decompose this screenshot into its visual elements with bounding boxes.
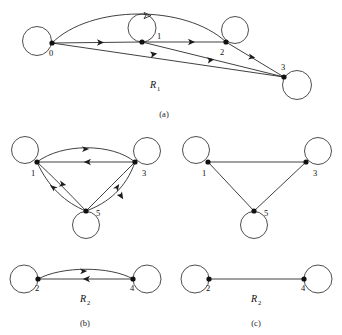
self-loop-c-node-2 — [181, 265, 209, 293]
node-a-0 — [49, 40, 54, 45]
node-b-2 — [35, 276, 40, 281]
caption-b: (b) — [80, 318, 90, 328]
self-loop-c-node-1 — [183, 137, 210, 164]
edge-a-0-to-2 — [52, 14, 226, 43]
node-a-2 — [223, 39, 228, 44]
caption-a: (a) — [159, 109, 169, 119]
figure-container: 0 1 2 3 R 1 (a) — [0, 0, 342, 335]
relation-label-a: R — [149, 79, 156, 90]
node-label-c-3: 3 — [313, 168, 317, 178]
edge-b-5-to-3 — [86, 162, 135, 211]
edge-a-2-to-3 — [226, 42, 284, 77]
self-loop-b-node-3 — [134, 138, 161, 165]
relation-label-b: R — [79, 293, 86, 304]
panel-c: 1 3 5 2 4 R 2 (c) — [181, 137, 332, 329]
node-b-4 — [130, 276, 135, 281]
self-loop-a-node-3 — [283, 71, 312, 100]
node-b-5 — [83, 208, 88, 213]
node-c-5 — [251, 208, 256, 213]
relation-subscript-a: 1 — [157, 85, 160, 92]
node-c-3 — [303, 159, 308, 164]
node-b-1 — [34, 159, 39, 164]
node-c-2 — [206, 276, 211, 281]
node-c-1 — [205, 159, 210, 164]
relation-label-c: R — [250, 293, 257, 304]
caption-c: (c) — [251, 318, 261, 328]
panel-b: 1 3 5 2 4 R 2 (b) — [10, 137, 161, 329]
self-loop-b-node-2 — [10, 265, 38, 293]
panel-a: 0 1 2 3 R 1 (a) — [23, 13, 312, 120]
self-loop-c-node-3 — [305, 138, 332, 165]
node-label-b-1: 1 — [31, 168, 35, 178]
self-loop-a-node-1 — [128, 14, 156, 42]
node-label-c-1: 1 — [202, 168, 206, 178]
self-loop-b-node-1 — [12, 137, 39, 164]
edge-c-5-3 — [254, 162, 306, 211]
self-loop-a-node-0 — [23, 27, 52, 56]
arrowhead-b-3-to-5 — [117, 192, 123, 200]
arrowhead-b-5-to-1 — [50, 185, 58, 191]
node-label-b-3: 3 — [142, 168, 146, 178]
node-label-b-5: 5 — [96, 208, 100, 218]
node-label-a-3: 3 — [281, 62, 285, 72]
edge-b-1-to-5 — [37, 162, 86, 211]
edge-c-1-5 — [208, 162, 254, 211]
relation-graphs-svg: 0 1 2 3 R 1 (a) — [0, 0, 342, 335]
arrowhead-a-1-to-3 — [207, 57, 214, 63]
relation-subscript-c: 2 — [258, 299, 261, 306]
arrowhead-a-0-to-3 — [150, 51, 157, 58]
node-a-1 — [139, 39, 144, 44]
relation-subscript-b: 2 — [87, 299, 90, 306]
node-label-a-0: 0 — [49, 48, 53, 58]
node-label-b-2: 2 — [35, 283, 39, 293]
node-a-3 — [281, 74, 286, 79]
edge-a-0-to-1 — [52, 42, 142, 43]
self-loop-b-node-4 — [133, 265, 161, 293]
node-label-c-5: 5 — [264, 208, 268, 218]
self-loop-c-node-4 — [304, 265, 332, 293]
node-label-c-2: 2 — [206, 283, 210, 293]
node-label-a-2: 2 — [220, 47, 224, 57]
arrowhead-b-1-to-3 — [82, 146, 89, 152]
node-b-3 — [132, 159, 137, 164]
node-label-a-1: 1 — [157, 31, 161, 41]
node-c-4 — [301, 276, 306, 281]
